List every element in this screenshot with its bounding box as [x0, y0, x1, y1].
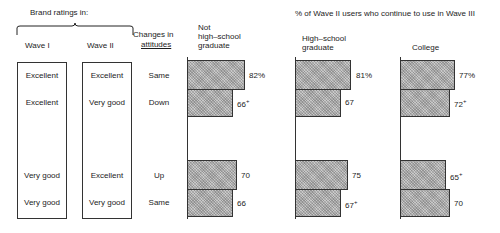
row2-change: Down	[134, 98, 184, 107]
row1-wave1: Excellent	[17, 71, 67, 80]
row1-wave2: Excellent	[82, 71, 132, 80]
bar-not-hs-row4	[187, 189, 233, 217]
bar-college-row4	[400, 189, 450, 217]
changes-header-line1: Changes in	[133, 30, 173, 39]
wave1-column	[17, 62, 67, 219]
changes-header-line2: attitudes	[141, 40, 171, 49]
group-label-college: College	[412, 43, 439, 52]
value-not-hs-row1: 82%	[249, 71, 265, 80]
chart-title: % of Wave II users who continue to use i…	[295, 9, 475, 18]
brand-ratings-label: Brand ratings in:	[30, 8, 88, 17]
brace-icon	[16, 22, 134, 36]
row4-change: Same	[134, 198, 184, 207]
row4-wave2: Very good	[82, 198, 132, 207]
row3-wave1: Very good	[17, 171, 67, 180]
bar-hs-row1	[295, 60, 351, 90]
bar-hs-row3	[295, 160, 348, 190]
row4-wave1: Very good	[17, 198, 67, 207]
value-not-hs-row4: 66	[237, 199, 246, 208]
value-college-row1: 77%	[459, 71, 475, 80]
value-college-row2: 72+	[454, 98, 466, 109]
value-college-row4: 70	[454, 199, 463, 208]
row2-wave2: Very good	[82, 98, 132, 107]
wave2-column	[82, 62, 132, 219]
value-not-hs-row3: 70	[241, 171, 250, 180]
row2-wave1: Excellent	[17, 98, 67, 107]
bar-hs-row2	[295, 89, 341, 117]
bar-not-hs-row3	[187, 160, 237, 190]
value-hs-row4: 67+	[345, 199, 357, 210]
row3-wave2: Excellent	[82, 171, 132, 180]
bar-college-row1	[400, 60, 455, 90]
row3-change: Up	[134, 171, 184, 180]
bar-not-hs-row1	[187, 60, 245, 90]
bar-hs-row4	[295, 189, 341, 217]
wave2-header: Wave II	[87, 41, 114, 50]
bar-college-row2	[400, 89, 450, 117]
bar-college-row3	[400, 160, 446, 190]
row1-change: Same	[134, 71, 184, 80]
value-college-row3: 65+	[450, 171, 462, 182]
value-hs-row3: 75	[352, 171, 361, 180]
wave1-header: Wave I	[25, 41, 50, 50]
value-hs-row1: 81%	[356, 71, 372, 80]
value-not-hs-row2: 66+	[237, 98, 249, 109]
group-label-not-hs: Not high–school graduate	[198, 23, 241, 51]
bar-not-hs-row2	[187, 89, 233, 117]
value-hs-row2: 67	[345, 98, 354, 107]
group-label-hs: High–school graduate	[302, 34, 346, 52]
